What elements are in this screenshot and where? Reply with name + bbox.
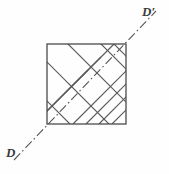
diagram-canvas (0, 0, 169, 174)
hatch-lines-secondary (21, 44, 169, 137)
section-diagram-figure: D D′ (0, 0, 169, 174)
section-label-d-end: D′ (142, 5, 155, 18)
section-label-d-start: D (6, 146, 16, 159)
hatch-lines-primary (0, 0, 169, 174)
cutting-plane-centerline (14, 11, 156, 160)
